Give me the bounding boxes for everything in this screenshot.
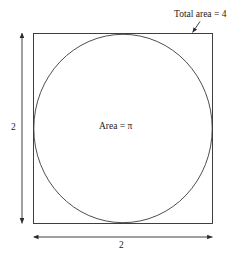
callout-arrow [193,22,201,33]
height-dimension-label: 2 [11,123,16,133]
geometry-figure: Total area = 4 Area = π 2 2 [0,0,243,256]
total-area-label: Total area = 4 [174,10,226,20]
width-dimension-label: 2 [119,241,124,251]
circle-area-label: Area = π [99,122,132,132]
